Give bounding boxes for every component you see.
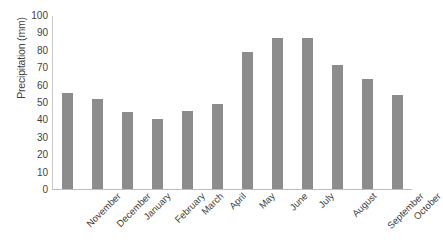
x-axis-line: [52, 189, 412, 190]
y-axis-tick-label: 10: [37, 168, 48, 178]
y-axis-tick-label: 50: [37, 98, 48, 108]
x-axis-tick-labels: NovemberDecemberJanuaryFebruaryMarchApri…: [52, 191, 412, 249]
x-axis-tick-label: July: [317, 191, 336, 210]
y-axis-tick-label: 100: [31, 11, 48, 21]
x-axis-tick-label: June: [288, 191, 310, 213]
bar: [332, 65, 343, 189]
bar: [392, 95, 403, 189]
bar-series: [52, 16, 412, 189]
y-axis-tick-labels: 0102030405060708090100: [22, 0, 48, 249]
x-axis-tick-label: August: [351, 191, 379, 219]
bar: [122, 112, 133, 189]
bar: [92, 99, 103, 189]
x-axis-tick-label: May: [257, 191, 277, 211]
y-axis-tick-label: 70: [37, 63, 48, 73]
bar: [212, 104, 223, 189]
bar: [272, 38, 283, 189]
x-axis-tick-label: April: [228, 191, 249, 212]
y-axis-tick-label: 40: [37, 115, 48, 125]
y-axis-tick-label: 30: [37, 133, 48, 143]
y-axis-tick-label: 80: [37, 46, 48, 56]
bar: [362, 79, 373, 189]
bar: [152, 119, 163, 189]
bar: [242, 52, 253, 189]
y-axis-tick-label: 0: [42, 185, 48, 195]
bar: [182, 111, 193, 189]
y-axis-tick-label: 20: [37, 150, 48, 160]
y-axis-tick-label: 90: [37, 28, 48, 38]
y-axis-tick-label: 60: [37, 81, 48, 91]
bar: [302, 38, 313, 189]
plot-area: [52, 16, 412, 190]
bar: [62, 93, 73, 189]
